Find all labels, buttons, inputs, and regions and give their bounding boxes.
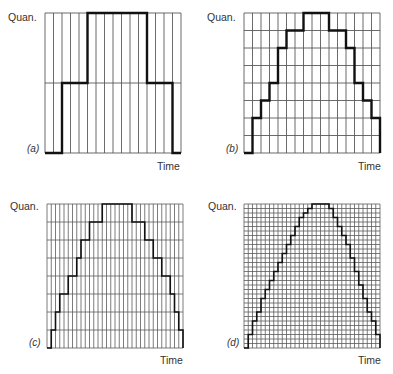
panel-d-plot [242, 202, 382, 350]
panel-c-plot [45, 202, 185, 350]
y-axis-label: Quan. [208, 200, 237, 212]
panel-tag: (b) [226, 143, 238, 154]
x-axis-label: Time [160, 354, 183, 366]
panel-tag: (c) [29, 337, 41, 348]
panel-a-plot [43, 11, 183, 155]
y-axis-label: Quan. [10, 200, 39, 212]
x-axis-label: Time [358, 354, 381, 366]
panel-b-plot [242, 11, 382, 155]
x-axis-label: Time [157, 160, 180, 172]
x-axis-label: Time [358, 160, 381, 172]
y-axis-label: Quan. [207, 11, 236, 23]
panel-tag: (d) [227, 337, 239, 348]
panel-tag: (a) [27, 143, 39, 154]
y-axis-label: Quan. [8, 11, 37, 23]
